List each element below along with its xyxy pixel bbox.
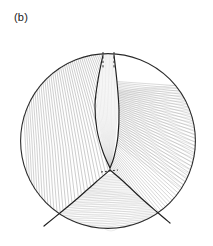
ray	[50, 75, 159, 213]
ray	[40, 191, 180, 197]
ray	[47, 78, 60, 215]
ray	[48, 77, 183, 95]
ray	[53, 73, 71, 221]
ray	[27, 106, 32, 186]
ray	[34, 93, 193, 119]
ray	[70, 62, 105, 229]
ray	[47, 78, 184, 186]
caustic-diagram	[0, 0, 213, 246]
